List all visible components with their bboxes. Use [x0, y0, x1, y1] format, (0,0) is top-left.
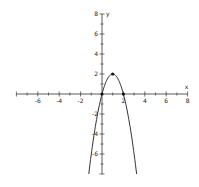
point-marker — [111, 72, 114, 75]
y-axis-label: y — [106, 10, 110, 18]
tick-labels: -6-4-224688642-2-4-6 — [35, 10, 190, 157]
point-marker — [100, 92, 103, 95]
y-tick-label: 6 — [94, 30, 98, 37]
x-axis-label: x — [185, 83, 189, 90]
parabola-chart: -6-4-224688642-2-4-6 x y — [0, 0, 199, 187]
x-tick-label: 6 — [164, 97, 168, 104]
parabola-curve — [89, 74, 137, 174]
x-tick-label: -6 — [35, 97, 41, 104]
x-tick-label: 8 — [186, 97, 190, 104]
x-tick-label: -2 — [78, 97, 84, 104]
x-tick-label: -4 — [56, 97, 62, 104]
point-marker — [122, 92, 125, 95]
y-tick-label: 8 — [94, 10, 98, 17]
y-tick-label: 4 — [94, 50, 98, 57]
y-tick-label: -6 — [92, 150, 98, 157]
y-tick-label: 2 — [94, 70, 98, 77]
highlighted-points — [100, 72, 125, 95]
x-tick-label: 4 — [143, 97, 147, 104]
